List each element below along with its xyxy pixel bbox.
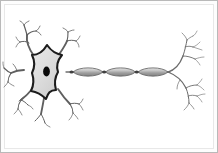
- dendrite-tip: [8, 82, 14, 86]
- dendrite-tip: [79, 99, 83, 104]
- dendrite-twig: [24, 25, 27, 35]
- dendrite-tip: [36, 26, 40, 31]
- dendrite-branch: [27, 35, 34, 56]
- dendrite-tip: [4, 82, 8, 87]
- myelin-segment: [73, 68, 103, 76]
- dendrite-twig: [67, 40, 76, 41]
- terminal-tip: [187, 36, 193, 40]
- terminal-tip: [197, 96, 202, 102]
- dendrite-twig: [8, 73, 11, 82]
- terminal-twig: [188, 95, 197, 96]
- dendrite-tip: [3, 62, 4, 68]
- dendrite-twig: [18, 100, 21, 109]
- myelin-segment: [138, 68, 168, 76]
- terminal-branch: [168, 72, 186, 88]
- terminal-tip: [177, 80, 180, 89]
- myelin-segment: [106, 68, 136, 76]
- dendrite-twig: [70, 103, 79, 104]
- dendrite-tip: [24, 21, 29, 25]
- dendrite-tip: [69, 113, 73, 120]
- dendrite-twig: [35, 114, 41, 121]
- terminal-tip: [193, 31, 197, 36]
- dendrite-tip: [79, 104, 83, 110]
- terminal-twig: [186, 85, 197, 88]
- terminal-twig: [183, 56, 195, 59]
- neuron-diagram: [0, 0, 218, 153]
- terminal-tip: [189, 103, 194, 109]
- myelin-sheath-group: [70, 68, 169, 76]
- terminal-tip: [197, 85, 204, 90]
- dendrite-tip: [28, 105, 33, 109]
- dendrite-tip: [14, 109, 18, 114]
- dendrite-tip: [13, 64, 17, 71]
- dendrite-twig: [41, 114, 45, 123]
- terminal-tip: [184, 103, 189, 110]
- dendrite-twig: [21, 100, 28, 105]
- dendrite-branch: [58, 89, 70, 104]
- node-of-ranvier: [70, 70, 74, 73]
- axon-terminals-group: [168, 31, 205, 110]
- figure-canvas: [0, 0, 218, 153]
- dendrite-twig: [27, 31, 36, 35]
- dendrite-twig: [67, 32, 68, 41]
- node-of-ranvier: [102, 71, 106, 74]
- dendrite-twig: [4, 68, 11, 73]
- terminal-twig: [183, 40, 187, 56]
- dendrite-tip: [76, 41, 79, 47]
- terminal-tip: [182, 33, 187, 40]
- node-of-ranvier: [135, 71, 139, 74]
- terminal-tip: [197, 94, 205, 96]
- dendrite-tip: [36, 31, 41, 35]
- terminal-tip: [193, 42, 200, 47]
- nucleus: [43, 67, 50, 77]
- dendrite-tip: [73, 113, 78, 119]
- dendrite-tip: [63, 28, 68, 32]
- terminal-twig: [185, 46, 193, 47]
- terminal-tip: [195, 59, 200, 65]
- dendrite-tip: [20, 21, 24, 25]
- dendrite-tip: [68, 30, 74, 32]
- dendrite-tip: [18, 109, 22, 115]
- terminal-tip: [195, 57, 204, 59]
- terminal-branch: [168, 56, 183, 72]
- terminal-tip: [193, 47, 202, 50]
- dendrite-tip: [45, 123, 50, 127]
- dendrite-tip: [16, 37, 20, 42]
- terminal-tip: [197, 79, 202, 85]
- dendrite-branch: [41, 98, 44, 114]
- soma-group: [31, 45, 62, 99]
- dendrite-branch: [11, 70, 24, 73]
- dendrite-tip: [76, 36, 80, 41]
- dendrite-twig: [70, 104, 73, 113]
- dendrite-tip: [16, 42, 20, 47]
